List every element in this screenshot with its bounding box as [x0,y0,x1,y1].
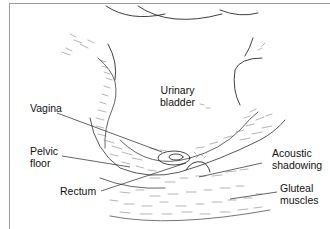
gluteal-outline [110,210,270,221]
label-gluteal-muscles: Gluteal muscles [280,182,319,206]
leader-gluteal-muscles [230,192,277,199]
label-vagina: Vagina [30,102,62,114]
label-pelvic-floor: Pelvic floor [30,145,58,169]
bladder-wall-right [245,38,253,56]
leader-rectum [101,163,186,191]
transducer-arc-2 [138,6,222,19]
leader-pelvic-floor [62,156,130,167]
leader-acoustic-shadowing [199,163,262,177]
label-acoustic-shadowing: Acoustic shadowing [272,147,322,171]
bladder-floor [120,112,258,161]
transducer-arc-3 [220,10,258,15]
label-rectum: Rectum [60,185,96,197]
label-urinary-bladder: Urinary bladder [160,84,195,108]
leader-vagina [57,113,162,152]
